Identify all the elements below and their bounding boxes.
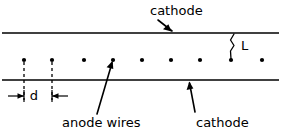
gap-distance-dimension: L [231,34,250,59]
diagram-canvas: d L cathode cathode anode wires [0,0,281,138]
dimension-arrowhead-right [52,93,59,99]
anode-wires-leader-arrowhead [107,61,114,69]
anode-wire-plane [22,58,264,62]
anode-wires-label: anode wires [62,115,141,130]
anode-wire-dot [111,58,115,62]
wire-spacing-label: d [30,88,38,103]
cathode-top-leader [158,20,172,32]
cathode-bottom-leader [187,82,195,113]
cathode-bottom-label: cathode [196,115,249,130]
cathode-top-label: cathode [150,3,203,18]
cathode-bottom-leader-arrowhead [187,82,194,91]
anode-wire-dot [169,58,173,62]
anode-wire-dot [140,58,144,62]
gap-bracket [231,34,235,59]
wire-spacing-dimension: d [8,62,68,103]
anode-wire-dot [198,58,202,62]
anode-wires-leader-line [97,63,112,114]
anode-wire-dot [50,58,54,62]
anode-wire-dot [82,58,86,62]
anode-wire-dot [260,58,264,62]
dimension-arrowhead-left [18,93,25,99]
anode-wires-leader [97,61,113,114]
gap-distance-label: L [241,38,249,53]
anode-wire-dot [22,58,26,62]
chamber-cross-section-diagram: d L cathode cathode anode wires [0,0,281,138]
